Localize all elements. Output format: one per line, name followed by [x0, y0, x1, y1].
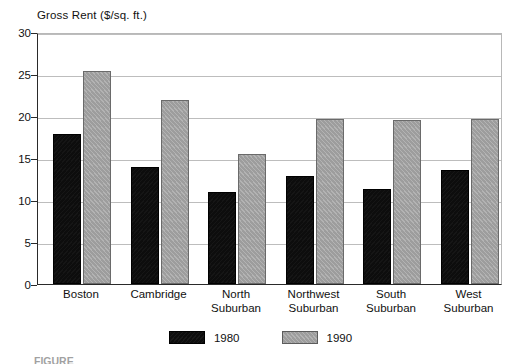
bar-1990	[316, 119, 344, 284]
bar-1990	[393, 120, 421, 284]
bar-1980	[363, 189, 391, 284]
chart-title: Gross Rent ($/sq. ft.)	[37, 9, 147, 21]
bar-1980	[131, 167, 159, 284]
bar-group	[363, 34, 421, 284]
legend-label: 1990	[327, 332, 353, 344]
legend-item-1990[interactable]: 1990	[282, 331, 353, 344]
x-axis-category-label-line1: Cambridge	[130, 288, 186, 300]
bar-1990	[471, 119, 499, 284]
y-axis-tick-label: 25	[5, 69, 31, 81]
bar-1980	[286, 176, 314, 284]
y-axis-tick-mark	[31, 285, 37, 286]
x-axis-category-label: WestSuburban	[414, 288, 521, 315]
chart-legend: 19801990	[0, 331, 521, 344]
y-axis-tick-label: 10	[5, 195, 31, 207]
gray-swatch	[282, 331, 318, 344]
y-axis-tick-label: 15	[5, 153, 31, 165]
y-axis-tick-label: 5	[5, 237, 31, 249]
bar-1990	[161, 100, 189, 284]
bar-group	[286, 34, 344, 284]
x-axis-category-label-line1: Northwest	[288, 288, 340, 300]
bars-layer	[38, 34, 501, 284]
bar-1980	[441, 170, 469, 284]
bar-1990	[83, 71, 111, 284]
x-axis-category-label-line1: West	[456, 288, 482, 300]
x-axis-category-label-line2: Suburban	[414, 302, 521, 316]
y-axis-tick-label: 20	[5, 111, 31, 123]
bar-1980	[208, 192, 236, 284]
x-axis-category-label-line1: North	[222, 288, 250, 300]
legend-item-1980[interactable]: 1980	[169, 331, 240, 344]
bar-1980	[53, 134, 81, 284]
figure-caption: FIGURE	[34, 355, 74, 364]
plot-area	[37, 33, 502, 285]
bar-group	[131, 34, 189, 284]
bar-group	[441, 34, 499, 284]
legend-label: 1980	[214, 332, 240, 344]
bar-group	[208, 34, 266, 284]
bar-group	[53, 34, 111, 284]
figure-container: Gross Rent ($/sq. ft.) 051015202530 Bost…	[0, 0, 521, 364]
y-axis-tick-label: 30	[5, 27, 31, 39]
y-axis-labels: 051015202530	[0, 33, 31, 285]
black-swatch	[169, 331, 205, 344]
x-axis-category-label-line1: South	[376, 288, 406, 300]
x-axis-category-label-line1: Boston	[63, 288, 99, 300]
bar-1990	[238, 154, 266, 284]
